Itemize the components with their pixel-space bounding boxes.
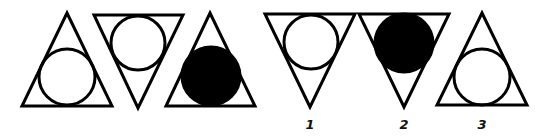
circle-outline-icon [454,49,510,105]
option-3-figure[interactable] [437,13,527,105]
triangle-up-icon [437,13,527,105]
sequence-figure-3 [166,13,255,106]
circle-outline-icon [111,16,165,70]
circle-filled-icon [182,47,240,105]
option-2-figure[interactable] [359,14,449,107]
option-1-figure[interactable] [265,14,355,107]
circle-outline-icon [39,49,95,105]
circle-outline-icon [284,15,338,69]
triangle-down-icon [265,14,355,107]
option-3-label: 3 [477,117,486,132]
option-2-label: 2 [399,117,408,132]
circle-filled-icon [375,14,433,72]
puzzle-canvas: 1 2 3 [0,0,547,138]
option-1-label: 1 [305,117,314,132]
